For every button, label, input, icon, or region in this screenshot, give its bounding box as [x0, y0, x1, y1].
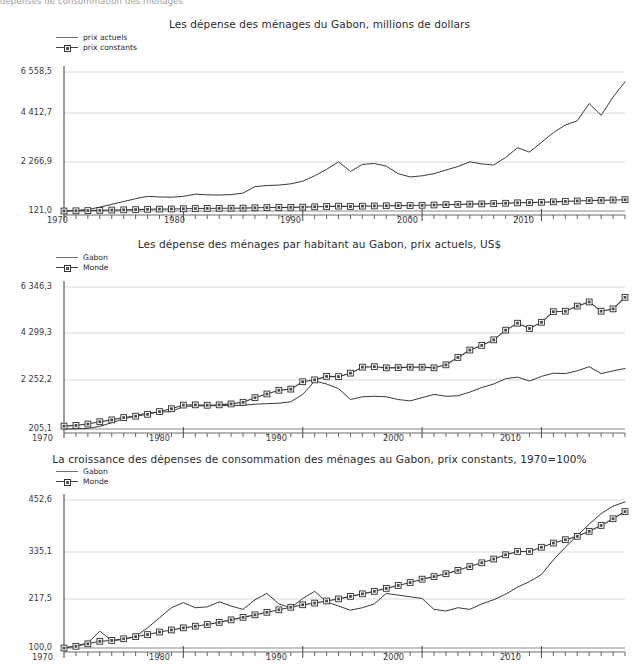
chart-1-ytick-1: 4 412,7 — [0, 107, 52, 117]
chart-1-ytick-2: 2 266,9 — [0, 156, 52, 166]
chart-2-xtick-3: 2000 — [383, 433, 404, 443]
chart-2-ytick-0: 6 346,3 — [0, 281, 52, 291]
clipped-header-text: dépenses de consommation des ménages — [0, 0, 639, 8]
chart-2-xtick-4: 2010 — [500, 433, 521, 443]
chart-2-ytick-2: 2 252,2 — [0, 374, 52, 384]
chart-1-xtick-3: 2000 — [397, 215, 418, 225]
chart-1-ytick-0: 6 558,5 — [0, 66, 52, 76]
clipped-header-label: dépenses de consommation des ménages — [0, 0, 639, 6]
chart-2-plot-area — [56, 238, 631, 438]
chart-1-xtick-0: 1970 — [47, 215, 68, 225]
chart-2-xtick-1: 1980 — [149, 433, 170, 443]
chart-1-xtick-1: 1980 — [164, 215, 185, 225]
chart-3-xtick-1: 1980 — [149, 652, 170, 662]
chart-3-xtick-0: 1970 — [32, 652, 53, 662]
chart-3-ytick-0: 452,6 — [0, 494, 52, 504]
chart-3-xtick-2: 1990 — [266, 652, 287, 662]
chart-panel-3: La croissance des dépenses de consommati… — [0, 453, 639, 667]
chart-2-ytick-1: 4 299,3 — [0, 327, 52, 337]
chart-3-ytick-3: 100,0 — [0, 642, 52, 652]
chart-panel-1: Les dépense des ménages du Gabon, millio… — [0, 18, 639, 238]
chart-3-plot-area — [56, 453, 631, 658]
chart-3-xtick-3: 2000 — [383, 652, 404, 662]
chart-1-xtick-4: 2010 — [513, 215, 534, 225]
chart-panel-2: Les dépense des ménages par habitant au … — [0, 238, 639, 453]
chart-2-ytick-3: 205,1 — [0, 423, 52, 433]
chart-3-ytick-2: 217,5 — [0, 593, 52, 603]
chart-2-xtick-2: 1990 — [266, 433, 287, 443]
chart-3-ytick-1: 335,1 — [0, 546, 52, 556]
chart-3-xtick-4: 2010 — [500, 652, 521, 662]
chart-1-plot-area — [56, 18, 631, 223]
chart-1-ytick-3: 121,0 — [0, 205, 52, 215]
chart-2-xtick-0: 1970 — [32, 433, 53, 443]
chart-1-xtick-2: 1990 — [280, 215, 301, 225]
